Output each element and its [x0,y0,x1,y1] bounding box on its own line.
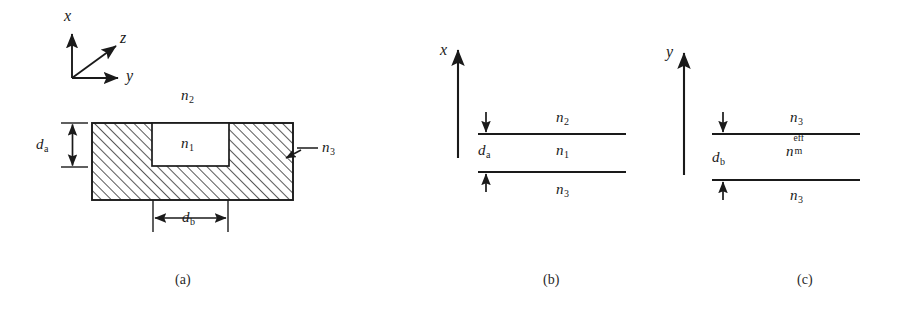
panel-c-group [684,53,860,200]
panel-a-n1-label: n1 [181,136,194,153]
caption-panel-a: (a) [175,272,191,288]
panel-b-n3-label: n3 [556,182,569,199]
dimension-da-group [61,123,88,167]
axis-y-label: y [126,68,133,84]
panel-b-n1-label: n1 [556,143,569,160]
panel-c-db-label: db [712,150,725,167]
panel-c-n3-top-label: n3 [790,110,803,127]
panel-b-n3-base: n [556,181,564,197]
panel-c-nm-sub: m [795,145,803,156]
panel-a-da-base: d [36,136,44,152]
axis-z-label: z [120,30,126,46]
panel-b-n1-base: n [556,142,564,158]
panel-a-da-sub: a [44,143,48,154]
panel-a-n1-sub: 1 [189,142,194,153]
panel-b-da-sub: a [486,149,490,160]
panel-b-n2-sub: 2 [564,116,569,127]
panel-b-group [458,50,626,192]
panel-a-n3-base: n [322,139,330,155]
panel-b-n3-sub: 3 [564,188,569,199]
panel-a-n2-label: n2 [181,88,194,105]
caption-panel-b: (b) [543,272,559,288]
panel-c-nm-sup: eff [794,133,804,143]
panel-c-nm-base: n [786,143,794,159]
axis-x-label: x [64,8,71,24]
panel-a-n3-label: n3 [322,140,335,157]
panel-c-nm-affixes: effm [794,141,811,156]
panel-a-n2-sub: 2 [189,94,194,105]
panel-a-n2-base: n [181,87,189,103]
panel-c-n3-bottom-sub: 3 [798,194,803,205]
panel-a-db-label: db [182,210,195,227]
panel-b-n2-label: n2 [556,110,569,127]
panel-c-db-sub: b [720,156,725,167]
panel-a-db-sub: b [190,216,195,227]
panel-b-n1-sub: 1 [564,149,569,160]
figure-root: x y z n2 n1 n3 da db x n2 n1 n3 da y n3 … [0,0,901,312]
panel-a-axes [72,34,118,78]
panel-a-n3-sub: 3 [330,146,335,157]
panel-c-n3-top-sub: 3 [798,116,803,127]
panel-b-da-label: da [478,143,490,160]
panel-a-db-base: d [182,209,190,225]
panel-c-n3-bottom-label: n3 [790,188,803,205]
panel-b-n2-base: n [556,109,564,125]
panel-a-da-label: da [36,137,48,154]
caption-panel-c: (c) [797,272,813,288]
waveguide-figure-svg [0,0,901,312]
panel-b-axis-x-label: x [440,42,447,58]
panel-c-db-base: d [712,149,720,165]
panel-c-n3-top-base: n [790,109,798,125]
panel-c-axis-y-label: y [666,44,673,60]
panel-c-n3-bottom-base: n [790,187,798,203]
panel-a-n1-base: n [181,135,189,151]
panel-c-nm-eff-label: neffm [786,141,811,160]
panel-b-da-base: d [478,142,486,158]
panel-a-group [61,34,318,232]
axis-z-line [72,46,116,78]
